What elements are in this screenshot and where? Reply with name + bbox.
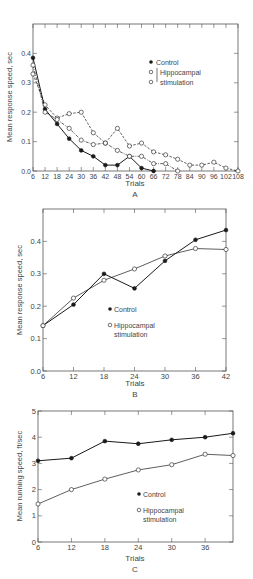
control-point-marker — [140, 166, 144, 170]
series-a — [31, 56, 240, 173]
legend-hippo-marker-1-icon — [149, 70, 153, 74]
legend-hippo-marker-icon — [108, 323, 112, 327]
y-tick-label: 0 — [32, 538, 36, 547]
x-tick-label: 30 — [161, 372, 169, 381]
control-point-marker — [72, 303, 76, 307]
control-point-marker — [231, 431, 235, 435]
plot-frame — [38, 411, 233, 542]
panel-letter-a: A — [132, 190, 138, 199]
x-tick-label: 72 — [162, 173, 170, 180]
legend-control-marker-icon — [108, 307, 112, 311]
hippocampal-point-marker — [67, 126, 71, 130]
axes-c: 61218243036012345 — [32, 407, 233, 553]
control-point-marker — [116, 163, 120, 167]
y-tick-label: 0.0 — [31, 367, 41, 376]
legend-control-marker-icon — [137, 492, 141, 496]
x-tick-label: 36 — [89, 173, 97, 180]
series-line — [38, 454, 233, 504]
y-tick-label: 0.2 — [21, 109, 31, 116]
legend-hippo-label-1-c: Hippocampal — [143, 507, 184, 515]
y-tick-label: 3 — [32, 459, 36, 468]
x-tick-label: 6 — [36, 543, 40, 552]
y-tick-label: 0.4 — [21, 50, 31, 57]
x-tick-label: 18 — [101, 543, 109, 552]
control-point-marker — [194, 238, 198, 242]
control-point-marker — [136, 442, 140, 446]
hippocampal-point-marker — [164, 162, 168, 166]
legend-control-marker-icon — [149, 60, 153, 64]
x-tick-label: 24 — [134, 543, 142, 552]
control-point-marker — [91, 154, 95, 158]
hippocampal-point-marker — [231, 453, 235, 457]
legend-hippo-marker-2-icon — [149, 80, 153, 84]
hippocampal-point-marker — [102, 278, 106, 282]
y-tick-label: 0.4 — [31, 237, 41, 246]
control-point-marker — [55, 122, 59, 126]
legend-hippo-label-2-c: stimulation — [143, 516, 177, 523]
control-point-marker — [70, 456, 74, 460]
hippocampal-point-marker — [31, 72, 35, 76]
control-point-marker — [203, 435, 207, 439]
hippocampal-point-marker — [69, 488, 73, 492]
x-tick-label: 18 — [100, 372, 108, 381]
hippocampal-point-marker — [115, 126, 119, 130]
y-axis-label-a: Mean response speed, sec — [5, 52, 14, 142]
hippocampal-point-marker — [200, 163, 204, 167]
hippocampal-point-marker — [203, 452, 207, 456]
hippocampal-point-marker — [136, 468, 140, 472]
legend-control-label-c: Control — [143, 491, 166, 498]
control-point-marker — [224, 228, 228, 232]
plot-frame — [33, 24, 238, 171]
figure-svg: 61218243036424854606672788490961021080.0… — [0, 0, 253, 579]
y-tick-label: 0.3 — [21, 79, 31, 86]
hippocampal-point-marker — [151, 150, 155, 154]
legend-a: Control Hippocampal stimulation — [149, 59, 201, 86]
legend-control-label-b: Control — [114, 306, 137, 313]
control-point-marker — [79, 149, 83, 153]
hippocampal-point-marker — [79, 110, 83, 114]
hippocampal-point-marker — [31, 63, 35, 67]
series-line — [33, 58, 154, 171]
x-tick-label: 24 — [65, 173, 73, 180]
hippocampal-point-marker — [43, 110, 47, 114]
hippocampal-point-marker — [176, 169, 180, 173]
hippocampal-point-marker — [132, 267, 136, 271]
x-tick-label: 6 — [31, 173, 35, 180]
x-axis-label-a: Trials — [125, 179, 144, 188]
x-tick-label: 42 — [101, 173, 109, 180]
x-tick-label: 12 — [67, 543, 75, 552]
series-line — [33, 65, 178, 171]
control-point-marker — [133, 286, 137, 290]
hippocampal-point-marker — [224, 166, 228, 170]
hippocampal-point-marker — [188, 163, 192, 167]
control-point-marker — [170, 438, 174, 442]
axes-b: 61218243036420.00.10.20.30.4 — [31, 209, 231, 381]
y-tick-label: 1 — [32, 511, 36, 520]
control-point-marker — [103, 439, 107, 443]
hippocampal-point-marker — [115, 148, 119, 152]
y-axis-label-b: Mean response speed, sec — [15, 245, 24, 335]
hippocampal-point-marker — [91, 131, 95, 135]
x-tick-label: 42 — [222, 372, 230, 381]
x-tick-label: 84 — [186, 173, 194, 180]
x-tick-label: 30 — [168, 543, 176, 552]
hippocampal-point-marker — [151, 162, 155, 166]
hippocampal-point-marker — [91, 142, 95, 146]
x-tick-label: 30 — [77, 173, 85, 180]
y-tick-label: 4 — [32, 433, 36, 442]
x-tick-label: 90 — [198, 173, 206, 180]
y-tick-label: 0.0 — [21, 168, 31, 175]
control-point-marker — [103, 163, 107, 167]
x-tick-label: 96 — [210, 173, 218, 180]
control-point-marker — [67, 137, 71, 141]
legend-c: Control Hippocampal stimulation — [137, 491, 184, 523]
panel-letter-b: B — [132, 390, 137, 399]
hippocampal-point-marker — [41, 324, 45, 328]
hippocampal-point-marker — [139, 141, 143, 145]
x-tick-label: 12 — [41, 173, 49, 180]
hippocampal-point-marker — [170, 463, 174, 467]
panel-letter-c: C — [132, 565, 138, 574]
series-c — [36, 431, 235, 506]
hippocampal-point-marker — [103, 141, 107, 145]
hippocampal-point-marker — [103, 477, 107, 481]
